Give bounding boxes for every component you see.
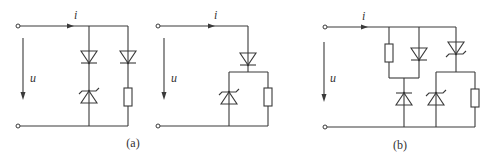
terminal-top: [323, 25, 327, 29]
terminal-bottom: [16, 124, 20, 128]
current-label: i: [362, 9, 365, 23]
terminal-top: [156, 24, 160, 28]
current-arrow-icon: [67, 24, 74, 29]
resistor-icon: [124, 88, 132, 106]
circuit-diagram: i u i u (a) i: [0, 0, 489, 162]
circuit-b: i u: [322, 9, 480, 129]
terminal-bottom: [323, 125, 327, 129]
resistor-icon: [385, 44, 393, 62]
current-label: i: [214, 8, 217, 22]
circuit-a-right: i u: [156, 8, 272, 128]
voltage-label: u: [330, 71, 336, 85]
caption-b: (b): [393, 138, 407, 152]
caption-a: (a): [126, 136, 139, 150]
current-label: i: [74, 8, 77, 22]
terminal-top: [16, 24, 20, 28]
current-arrow-icon: [361, 25, 368, 30]
voltage-arrow-icon: [21, 92, 26, 100]
circuit-a-left: i u: [16, 8, 136, 128]
voltage-label: u: [30, 71, 36, 85]
voltage-label: u: [171, 71, 177, 85]
resistor-icon: [264, 88, 272, 106]
voltage-arrow-icon: [322, 94, 327, 102]
current-arrow-icon: [208, 24, 215, 29]
resistor-icon: [471, 89, 479, 107]
terminal-bottom: [156, 124, 160, 128]
voltage-arrow-icon: [162, 92, 167, 100]
